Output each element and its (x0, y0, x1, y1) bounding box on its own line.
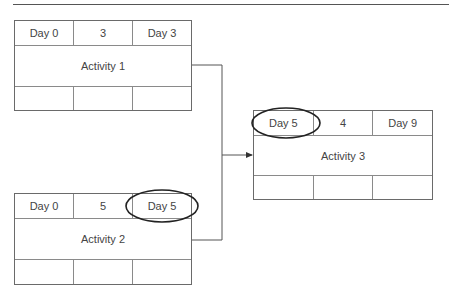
edge-activity-1-to-3 (192, 65, 222, 155)
highlight-ellipse-activity-2-finish (126, 190, 198, 222)
edge-activity-2-to-3 (192, 155, 222, 240)
highlight-ellipse-activity-3-start (252, 108, 320, 138)
connectors-layer (0, 0, 449, 294)
